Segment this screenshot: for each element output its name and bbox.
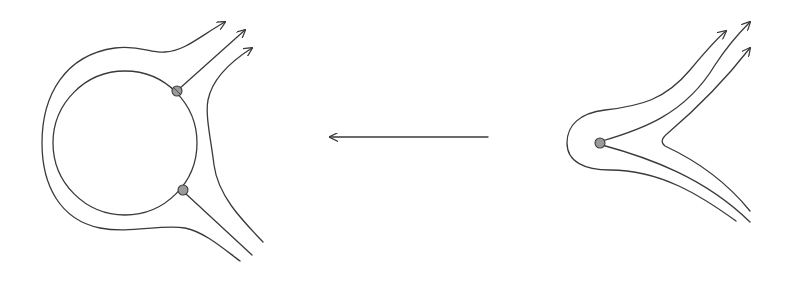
point-lower-tail	[602, 145, 750, 222]
right-figure	[567, 22, 750, 222]
outer-loop-streamline	[567, 31, 736, 221]
lower-point	[178, 185, 188, 195]
right-streamline	[207, 48, 263, 242]
diagram-svg	[0, 0, 787, 281]
left-figure	[42, 22, 263, 261]
center-point	[595, 138, 605, 148]
cusp-streamline	[662, 48, 750, 211]
diagram-canvas: Two flow-line figures connected by a lef…	[0, 0, 787, 281]
lower-point-tail	[185, 193, 252, 255]
point-upper-streamline	[602, 22, 750, 141]
